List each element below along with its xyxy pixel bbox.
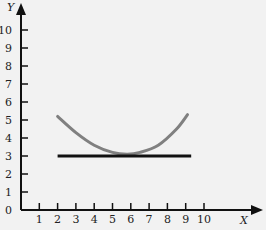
chart-background [0, 0, 266, 230]
x-tick-label: 3 [72, 213, 79, 226]
x-tick-label: 10 [197, 213, 211, 226]
y-tick-label: 9 [5, 42, 12, 55]
y-tick-label: 0 [5, 204, 12, 217]
y-tick-label: 8 [5, 60, 12, 73]
y-tick-label: 6 [5, 96, 12, 109]
y-tick-label: 1 [5, 186, 12, 199]
y-tick-label: 10 [0, 24, 12, 37]
y-tick-label: 7 [5, 78, 12, 91]
chart: 012345678910 12345678910 Y X [0, 0, 266, 230]
x-tick-label: 8 [164, 213, 171, 226]
x-tick-label: 9 [182, 213, 189, 226]
x-tick-label: 1 [36, 213, 43, 226]
y-tick-label: 4 [5, 132, 12, 145]
x-tick-label: 5 [109, 213, 116, 226]
x-axis-label: X [239, 214, 249, 227]
y-tick-label: 2 [5, 168, 12, 181]
y-tick-label: 3 [5, 150, 12, 163]
x-tick-label: 4 [91, 213, 98, 226]
x-tick-label: 2 [54, 213, 61, 226]
x-tick-label: 7 [146, 213, 153, 226]
y-tick-label: 5 [5, 114, 12, 127]
x-tick-label: 6 [127, 213, 134, 226]
